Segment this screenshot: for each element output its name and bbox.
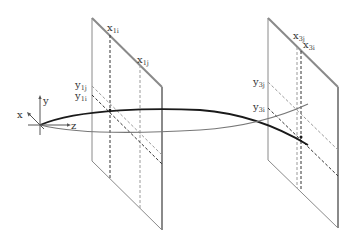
diagram-canvas: y z x x1i x1j y1j y1i x3j x3i y3j y3i bbox=[0, 0, 360, 243]
x-axis bbox=[29, 114, 44, 129]
plane-1-frame bbox=[92, 18, 162, 230]
y-axis-arrow-icon bbox=[38, 95, 41, 99]
plane-1-top-edge bbox=[92, 18, 162, 87]
label-x1i: x1i bbox=[107, 22, 119, 35]
label-y3i: y3i bbox=[252, 101, 265, 114]
ray-i-hit-plane-3 bbox=[300, 136, 303, 139]
label-y3j: y3j bbox=[252, 76, 265, 89]
ray-i-hit-plane-1 bbox=[109, 109, 112, 112]
x-axis-label: x bbox=[17, 109, 23, 120]
y-axis-label: y bbox=[42, 95, 49, 106]
plane-1-y1j-dashed bbox=[92, 86, 162, 155]
plane-1-y1i-dashed bbox=[92, 95, 162, 164]
label-x3i: x3i bbox=[303, 39, 315, 52]
plane-3-top-edge bbox=[268, 18, 338, 87]
plane-1 bbox=[92, 18, 162, 230]
z-axis-label: z bbox=[71, 120, 76, 131]
